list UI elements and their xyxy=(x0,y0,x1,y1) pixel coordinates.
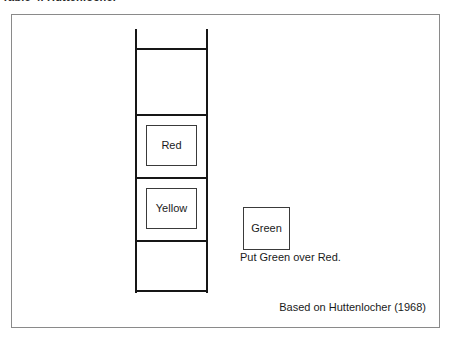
green-box[interactable]: Green xyxy=(243,207,290,250)
ladder-rung-2 xyxy=(135,114,208,116)
source-attribution: Based on Huttenlocher (1968) xyxy=(279,301,426,313)
ladder-cell-label-red: Red xyxy=(161,140,181,151)
ladder-rung-3 xyxy=(135,177,208,179)
top-caption-text: Table 4. Huttenlocher xyxy=(2,0,117,3)
ladder-rung-4 xyxy=(135,240,208,242)
ladder-rung-1 xyxy=(135,48,208,50)
ladder-rail-left xyxy=(135,29,137,293)
figure-frame: Red Yellow Green Put Green over Red. Bas… xyxy=(11,14,440,328)
ladder-cell-label-yellow: Yellow xyxy=(156,203,187,214)
green-box-label: Green xyxy=(251,223,282,234)
ladder-cell-box-red[interactable]: Red xyxy=(146,125,197,166)
instruction-caption: Put Green over Red. xyxy=(240,251,341,263)
ladder-rail-right xyxy=(206,29,208,293)
ladder-cell-box-yellow[interactable]: Yellow xyxy=(146,188,197,229)
ladder-rung-5 xyxy=(135,290,208,292)
top-caption-strip: Table 4. Huttenlocher xyxy=(0,0,451,7)
ladder-graphic: Red Yellow xyxy=(135,29,210,293)
